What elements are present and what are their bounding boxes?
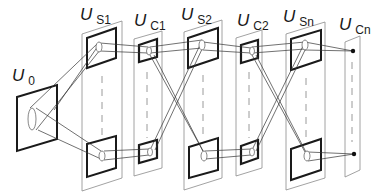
cone-uc1-top bbox=[147, 47, 152, 55]
cone-us1-bottom bbox=[99, 151, 105, 161]
cone-usn-top bbox=[302, 40, 308, 50]
cone-uc2-top bbox=[250, 47, 255, 55]
neocognitron-diagram bbox=[0, 0, 379, 196]
output-cell-ucn-bottom bbox=[352, 152, 356, 156]
label-usn: USn bbox=[283, 8, 314, 25]
cone-us2-bottom bbox=[201, 151, 207, 161]
label-ucn: UCn bbox=[339, 16, 371, 33]
cone-us2-top bbox=[199, 40, 205, 50]
cone-u0 bbox=[28, 108, 36, 130]
receptive-field-cones bbox=[28, 40, 310, 161]
cone-usn-bottom bbox=[304, 151, 310, 161]
label-us1: US1 bbox=[80, 6, 111, 23]
output-cell-ucn-top bbox=[351, 49, 355, 53]
cone-uc2-bottom bbox=[250, 148, 255, 156]
label-uc1: UC1 bbox=[134, 12, 166, 29]
layer-panel-ucn bbox=[345, 36, 360, 177]
label-u0: U0 bbox=[12, 67, 35, 84]
cone-uc1-bottom bbox=[148, 148, 153, 156]
cone-us1-top bbox=[96, 42, 102, 52]
cell-squares bbox=[17, 28, 321, 180]
label-us2: US2 bbox=[181, 6, 212, 23]
label-uc2: UC2 bbox=[237, 12, 269, 29]
